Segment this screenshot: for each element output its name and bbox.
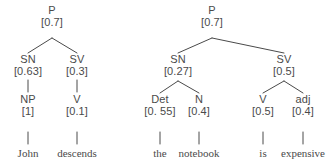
node-label: Det [144, 93, 175, 105]
right-tree-node-det: Det [0. 55] [144, 93, 175, 118]
right-edge-sv-v [263, 81, 284, 93]
node-label: V [252, 93, 274, 105]
node-probability: [0.27] [164, 65, 192, 78]
node-label: SV [273, 53, 295, 65]
node-label: P [41, 4, 63, 16]
node-probability: [0.4] [188, 105, 210, 118]
left-tree-node-v: V [0.1] [66, 93, 88, 118]
right-edge-sn-n [178, 81, 199, 93]
node-label: adj [292, 93, 314, 105]
right-edge-sn-det [160, 81, 178, 93]
right-edge-p-sn [178, 38, 212, 53]
right-tree-node-sn: SN [0.27] [164, 53, 192, 78]
right-edge-sv-adj [284, 81, 303, 93]
right-tree-leaf-is: is [259, 147, 266, 159]
node-label: V [66, 93, 88, 105]
right-tree-node-sv: SV [0.5] [273, 53, 295, 78]
node-label: N [188, 93, 210, 105]
node-probability: [0.7] [41, 16, 63, 29]
left-tree-leaf-descends: descends [57, 147, 97, 159]
right-tree-root-p: P [0.7] [201, 4, 223, 29]
left-tree-node-sn: SN [0.63] [14, 53, 42, 78]
node-label: SN [14, 53, 42, 65]
left-tree-root-p: P [0.7] [41, 4, 63, 29]
right-tree-node-v: V [0.5] [252, 93, 274, 118]
parse-tree-figure: P [0.7] SN [0.63] SV [0.3] NP [1] V [0.1… [0, 0, 336, 166]
right-tree-leaf-expensive: expensive [281, 147, 325, 159]
right-tree-leaf-the: the [153, 147, 166, 159]
node-probability: [0.5] [273, 65, 295, 78]
node-probability: [0.7] [201, 16, 223, 29]
left-edge-p-sn [28, 38, 52, 53]
node-label: SN [164, 53, 192, 65]
node-probability: [0.5] [252, 105, 274, 118]
right-tree-leaf-notebook: notebook [179, 147, 220, 159]
node-probability: [0.3] [66, 65, 88, 78]
node-probability: [0.4] [292, 105, 314, 118]
node-label: P [201, 4, 223, 16]
node-label: NP [20, 93, 35, 105]
right-tree-node-adj: adj [0.4] [292, 93, 314, 118]
node-probability: [0. 55] [144, 105, 175, 118]
left-tree-node-sv: SV [0.3] [66, 53, 88, 78]
left-tree-node-np: NP [1] [20, 93, 35, 118]
node-label: SV [66, 53, 88, 65]
right-edge-p-sv [212, 38, 284, 53]
left-tree-leaf-john: John [18, 147, 39, 159]
node-probability: [1] [20, 105, 35, 118]
right-tree-node-n: N [0.4] [188, 93, 210, 118]
node-probability: [0.63] [14, 65, 42, 78]
left-edge-p-sv [52, 38, 77, 53]
node-probability: [0.1] [66, 105, 88, 118]
